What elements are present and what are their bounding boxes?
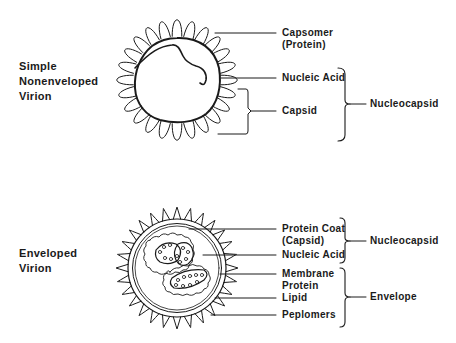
label-line: Membrane	[282, 268, 334, 280]
label-capsid: Capsid	[282, 105, 317, 117]
label-peplomers: Peplomers	[282, 309, 336, 321]
label-nucleocapsid: Nucleocapsid	[370, 98, 439, 110]
label-line: Capsomer	[282, 27, 333, 39]
label-envelope: Envelope	[370, 291, 417, 303]
simple-virion-title: Simple Nonenveloped Virion	[19, 59, 98, 104]
label-line: Protein Coat	[282, 223, 345, 235]
protein-coat-upper	[144, 233, 195, 274]
label-nucleic-acid-enveloped: Nucleic Acid	[282, 249, 345, 261]
title-line: Nonenveloped	[19, 74, 98, 89]
capsid-outline	[135, 38, 220, 122]
label-capsomer: Capsomer (Protein)	[282, 27, 333, 50]
title-line: Virion	[19, 89, 98, 104]
label-protein-coat: Protein Coat (Capsid)	[282, 223, 345, 246]
label-lipid: Lipid	[282, 292, 307, 304]
nucleic-acid-strand	[135, 45, 206, 85]
label-membrane-protein: Membrane Protein	[282, 268, 334, 291]
label-line: (Protein)	[282, 39, 333, 51]
title-line: Enveloped	[19, 246, 77, 261]
label-nucleic-acid: Nucleic Acid	[282, 72, 345, 84]
label-line: Protein	[282, 280, 334, 292]
title-line: Virion	[19, 261, 77, 276]
enveloped-virion-title: Enveloped Virion	[19, 246, 77, 276]
title-line: Simple	[19, 59, 98, 74]
virion-diagram: Simple Nonenveloped Virion Capsomer (Pro…	[0, 0, 456, 343]
label-nucleocapsid-enveloped: Nucleocapsid	[370, 235, 439, 247]
envelope-brace	[340, 268, 350, 327]
label-line: (Capsid)	[282, 235, 345, 247]
